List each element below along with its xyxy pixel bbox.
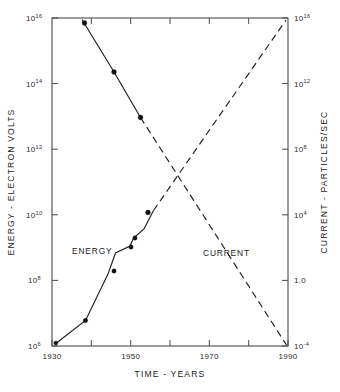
x-axis-title: TIME - YEARS	[135, 369, 206, 379]
chart-background	[0, 0, 340, 392]
series-label-energy: ENERGY	[72, 246, 112, 256]
right-tick-label-one: 1.0	[294, 276, 306, 285]
right-axis-title: CURRENT - PARTICLES/SEC	[319, 111, 329, 254]
chart-figure: ENERGY CURRENT 1016 1014 1012 1010 108 1…	[0, 0, 340, 392]
series-label-current: CURRENT	[203, 248, 250, 258]
left-axis-title: ENERGY - ELECTRON VOLTS	[6, 109, 16, 256]
x-tick-label-1990: 1990	[279, 352, 298, 361]
x-tick-label-1970: 1970	[200, 352, 219, 361]
chart-svg: ENERGY CURRENT 1016 1014 1012 1010 108 1…	[0, 0, 340, 392]
x-tick-label-1930: 1930	[43, 352, 62, 361]
x-tick-label-1950: 1950	[121, 352, 140, 361]
